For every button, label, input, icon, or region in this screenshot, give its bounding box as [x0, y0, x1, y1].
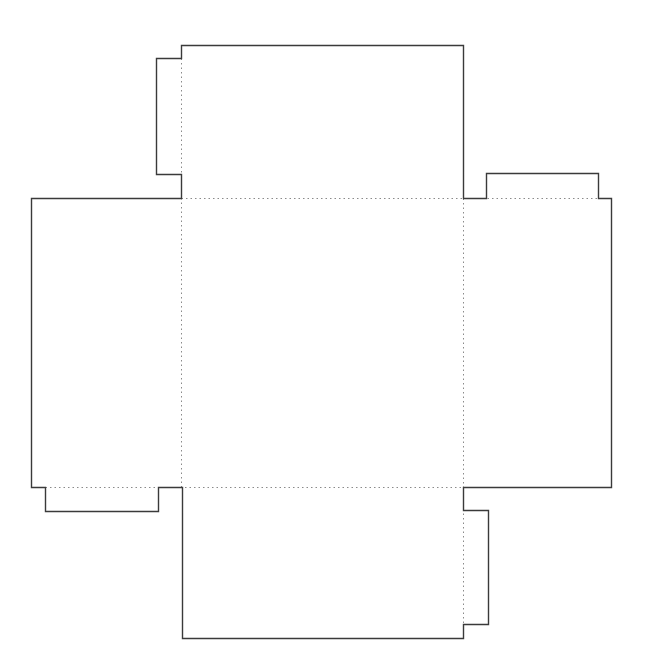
bottom-panel: [182, 487, 463, 638]
top-panel: [181, 45, 463, 198]
bottom-right-glue-tab: [463, 510, 488, 624]
base-panel: [181, 198, 463, 487]
right-panel: [463, 198, 611, 487]
left-bottom-glue-tab: [45, 487, 158, 511]
top-left-glue-tab: [156, 58, 181, 174]
panel-regions: [31, 45, 611, 638]
right-top-glue-tab: [486, 173, 598, 198]
box-net-canvas: [0, 0, 650, 672]
left-panel: [31, 198, 181, 487]
